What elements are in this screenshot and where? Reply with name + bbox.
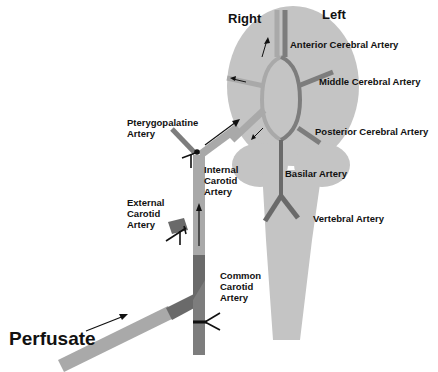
label-external-carotid-artery: External Carotid Artery xyxy=(127,197,165,230)
label-anterior-cerebral-artery: Anterior Cerebral Artery xyxy=(290,39,398,50)
label-left: Left xyxy=(322,7,346,22)
label-common-carotid-artery: Common Carotid Artery xyxy=(220,270,261,303)
label-perfusate: Perfusate xyxy=(9,328,96,350)
label-middle-cerebral-artery: Middle Cerebral Artery xyxy=(319,76,421,87)
label-right: Right xyxy=(228,11,261,26)
label-vertebral-artery: Vertebral Artery xyxy=(313,213,384,224)
label-internal-carotid-artery: Internal Carotid Artery xyxy=(204,164,238,197)
label-posterior-cerebral-artery: Posterior Cerebral Artery xyxy=(315,126,428,137)
label-pterygopalatine-artery: Pterygopalatine Artery xyxy=(127,117,198,139)
label-basilar-artery: Basilar Artery xyxy=(285,168,347,179)
cerebral-perfusion-diagram: Right Left Anterior Cerebral Artery Midd… xyxy=(0,0,438,372)
